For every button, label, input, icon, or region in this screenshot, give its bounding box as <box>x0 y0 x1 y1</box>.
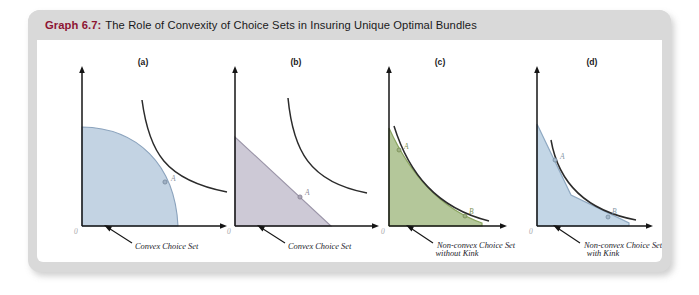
x-axis-arrow-d <box>646 223 653 229</box>
figure-title-text: The Role of Convexity of Choice Sets in … <box>105 19 477 31</box>
y-axis-arrow-d <box>534 66 540 73</box>
figure-card: Graph 6.7:The Role of Convexity of Choic… <box>28 10 671 272</box>
point-label-d-b: B <box>612 207 617 216</box>
panel-d-graphic: A B 0 Non-convex Choice Set with Kink <box>37 40 662 262</box>
tangency-point-d-b <box>606 215 610 219</box>
origin-label-d: 0 <box>529 227 533 236</box>
tangency-point-d-a <box>553 158 557 162</box>
set-pointer-line-d <box>556 227 580 243</box>
figure-plot-area: (a) (b) (c) (d) A 0 Convex Choice Set <box>37 40 662 262</box>
figure-caption: Graph 6.7:The Role of Convexity of Choic… <box>45 19 477 31</box>
figure-number-label: Graph 6.7: <box>45 19 101 31</box>
set-label-d-line2: with Kink <box>587 249 620 258</box>
figure-caption-bar: Graph 6.7:The Role of Convexity of Choic… <box>28 10 671 40</box>
point-label-d-a: A <box>559 152 565 161</box>
